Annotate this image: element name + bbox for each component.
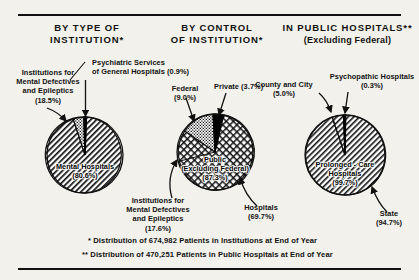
label-line: Institutions for [6,68,90,77]
leader-line-psychopathic [345,92,348,113]
label-value: (69.7%) [233,212,289,221]
label-line: Mental Hospitals [45,162,125,171]
label-pie1-institutions-mental-defectives: Institutions for Mental Defectives and E… [6,68,90,105]
footnote-single-asterisk: * Distribution of 674,982 Patients in In… [88,236,317,245]
label-line: Psychiatric Services [92,58,222,67]
label-value: (94.7%) [366,218,412,227]
leader-line-hospitals [240,178,257,206]
label-line: Hospitals [233,203,289,212]
leader-line-pie1-institutions [47,108,66,121]
leader-line-private [219,93,226,115]
label-pie3-prolonged-care-hospitals: Prolonged - Care Hospitals (99.7%) [305,160,385,187]
label-line: Federal [160,84,210,93]
label-line: State [366,209,412,218]
label-pie3-psychopathic-hospitals: Psychopathic Hospitals (0.3%) [326,72,418,90]
label-value: (99.7%) [305,178,385,187]
label-line: Public [172,155,258,164]
label-pie2-public-excluding-federal: Public (Excluding Federal) (87.3%) [172,155,258,182]
label-pie2-federal: Federal (9.0%) [160,84,210,102]
label-pie2-hospitals: Hospitals (69.7%) [233,203,289,221]
label-line: Mental Defectives [6,77,90,86]
label-pie2-institutions-mental-defectives: Institutions for Mental Defectives and E… [110,196,206,233]
label-value: (17.6%) [110,224,206,233]
label-line: and Epileptics [6,86,90,95]
label-value: (80.6%) [45,171,125,180]
label-line: Mental Defectives [110,205,206,214]
pie1-slice-psychiatric-services [84,117,86,155]
label-value: (5.0%) [248,89,320,98]
label-pie1-mental-hospitals: Mental Hospitals (80.6%) [45,162,125,180]
label-value: (87.3%) [172,173,258,182]
label-line: Institutions for [110,196,206,205]
pie-chart-type-of-institution [45,117,123,193]
leader-line-county-and-city [319,93,331,112]
label-pie3-state: State (94.7%) [366,209,412,227]
label-line: Psychopathic Hospitals [326,72,418,81]
label-line-with-value: of General Hospitals (0.9%) [92,67,222,76]
label-line: (Excluding Federal) [172,164,258,173]
label-value: (9.0%) [160,93,210,102]
label-line: County and City [248,80,320,89]
label-value: (18.5%) [6,96,90,105]
label-pie1-psychiatric-services: Psychiatric Services of General Hospital… [92,58,222,76]
label-pie3-county-and-city: County and City (5.0%) [248,80,320,98]
label-value: (0.3%) [326,81,418,90]
label-line: Prolonged - Care [305,160,385,169]
label-line: and Epileptics [110,214,206,223]
label-line: Hospitals [305,169,385,178]
footnote-double-asterisk: ** Distribution of 470,251 Patients in P… [82,250,333,259]
figure-chart-sheet: BY TYPE OF INSTITUTION* BY CONTROL OF IN… [0,0,419,280]
